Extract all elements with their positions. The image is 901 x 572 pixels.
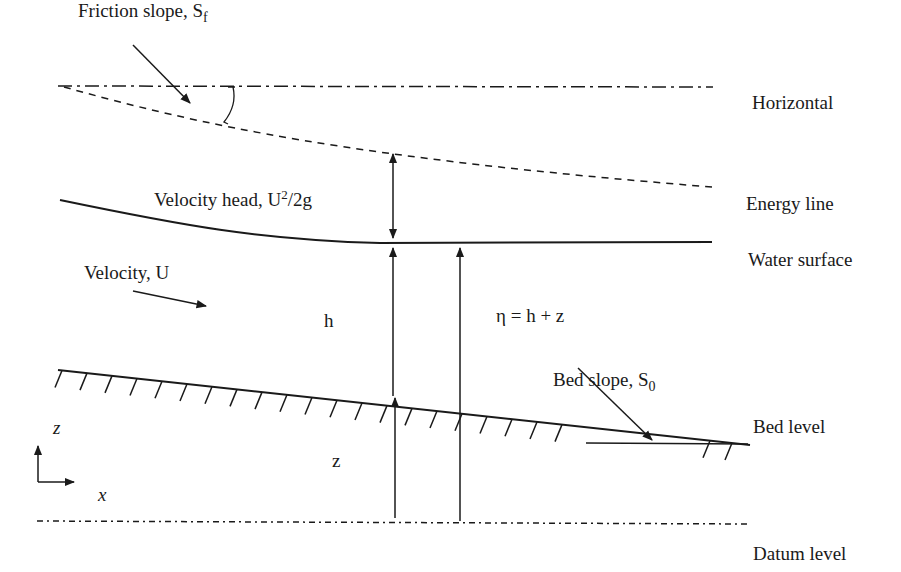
hatch-mark (180, 384, 187, 401)
velocity-head-suffix: /2g (288, 189, 313, 210)
hatch-mark (330, 400, 337, 417)
hatch-mark (305, 398, 312, 415)
hatch-mark (480, 416, 487, 433)
depth-label: h (324, 310, 334, 331)
hatch-mark (280, 395, 287, 412)
hatch-mark (255, 392, 262, 409)
water-surface-label: Water surface (748, 249, 852, 270)
bed-slope-reference-line (586, 443, 748, 444)
energy-line-label: Energy line (746, 193, 834, 214)
horizontal-label: Horizontal (752, 92, 833, 113)
hatch-mark (55, 370, 62, 387)
friction-slope-arrow (133, 45, 190, 103)
hatch-mark (205, 387, 212, 404)
friction-slope-subscript: f (203, 10, 208, 25)
hatch-mark (430, 411, 437, 428)
hatch-mark (155, 381, 162, 398)
horizontal-line (58, 86, 713, 87)
bed-slope-text: Bed slope, S (553, 369, 649, 390)
hatch-mark (530, 422, 537, 439)
hatch-mark (725, 443, 732, 460)
velocity-head-text: Velocity head, U (154, 189, 281, 210)
bed-level-label: Bed level (753, 416, 825, 437)
hatch-mark (455, 414, 462, 431)
velocity-head-label: Velocity head, U2/2g (154, 187, 312, 210)
axis-x-label: x (97, 484, 107, 505)
hatch-mark (230, 389, 237, 406)
friction-slope-angle-arc (224, 87, 235, 124)
hatch-mark (380, 406, 387, 423)
elevation-label: z (332, 450, 340, 471)
hatch-mark (555, 425, 562, 442)
hatch-mark (130, 379, 137, 396)
open-channel-flow-diagram: Friction slope, Sf Horizontal Energy lin… (0, 0, 901, 572)
hatch-mark (355, 403, 362, 420)
datum-line (37, 521, 750, 524)
bed-slope-subscript: 0 (649, 379, 656, 394)
energy-line (64, 87, 712, 187)
bed-slope-label: Bed slope, S0 (553, 369, 656, 394)
velocity-label: Velocity, U (84, 262, 170, 283)
friction-slope-text: Friction slope, S (78, 0, 203, 21)
hatch-mark (80, 373, 87, 390)
velocity-arrow (133, 291, 206, 306)
hatch-mark (405, 408, 412, 425)
datum-level-label: Datum level (753, 543, 846, 564)
hatch-mark (505, 419, 512, 436)
axis-z-label: z (52, 417, 61, 438)
stage-equation-label: η = h + z (496, 305, 564, 326)
hatch-mark (105, 376, 112, 393)
friction-slope-label: Friction slope, Sf (78, 0, 208, 25)
